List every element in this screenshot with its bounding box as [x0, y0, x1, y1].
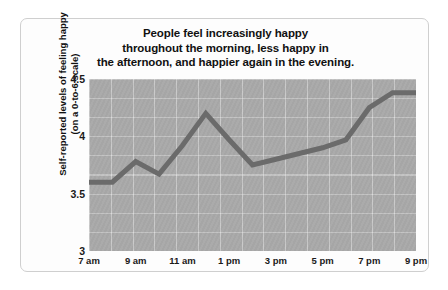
x-tick-label: 9 am	[125, 255, 147, 266]
x-tick-label: 3 pm	[265, 255, 287, 266]
x-tick-label: 1 pm	[218, 255, 240, 266]
data-line	[89, 79, 416, 251]
x-tick-label: 7 pm	[358, 255, 380, 266]
y-tick-label: 4.5	[59, 73, 85, 85]
x-tick-label: 7 am	[78, 255, 100, 266]
x-tick-label: 11 am	[169, 255, 195, 266]
plot-area	[89, 79, 416, 251]
x-axis-tick-labels: 7 am9 am11 am1 pm3 pm5 pm7 pm9 pm	[89, 255, 416, 271]
x-tick-label: 5 pm	[311, 255, 333, 266]
y-axis-tick-labels: 4.543.53	[57, 19, 85, 273]
chart-card: People feel increasingly happy throughou…	[20, 18, 429, 272]
y-tick-label: 3.5	[59, 188, 85, 200]
y-tick-label: 4	[59, 130, 85, 142]
x-tick-label: 9 pm	[405, 255, 427, 266]
